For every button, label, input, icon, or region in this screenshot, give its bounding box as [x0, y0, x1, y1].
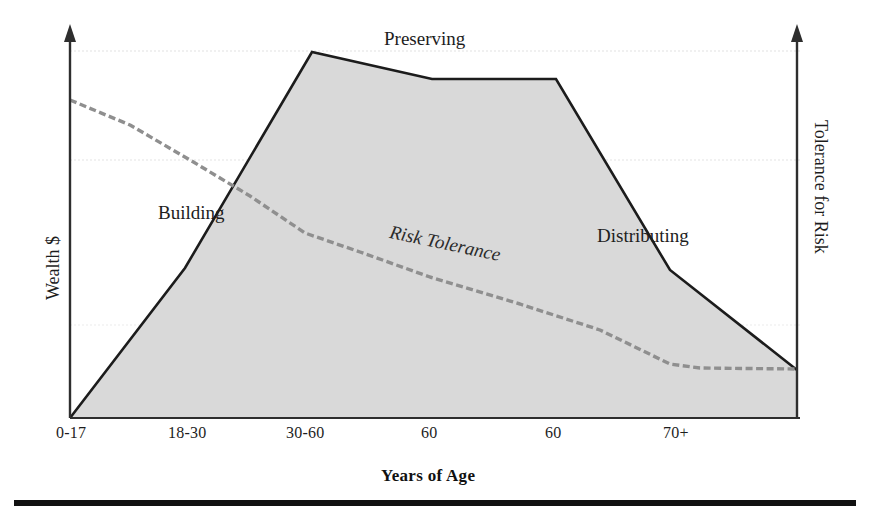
annotation-distributing: Distributing — [597, 226, 689, 245]
left-axis-title: Wealth $ — [44, 236, 62, 300]
right-axis — [791, 24, 803, 418]
x-tick-label-3: 60 — [421, 425, 437, 441]
right-axis-title: Tolerance for Risk — [812, 120, 830, 254]
x-tick-label-5: 70+ — [663, 425, 689, 441]
left-axis — [64, 24, 76, 418]
wealth-risk-tolerance-figure: Wealth $ Tolerance for Risk Preserving B… — [0, 0, 870, 525]
x-axis-title: Years of Age — [381, 467, 475, 484]
annotation-building: Building — [158, 203, 225, 222]
x-tick-label-0: 0-17 — [56, 425, 86, 441]
x-tick-label-2: 30-60 — [286, 425, 324, 441]
x-tick-label-4: 60 — [545, 425, 561, 441]
chart-canvas — [0, 0, 870, 525]
annotation-preserving: Preserving — [384, 29, 465, 48]
bottom-rule — [14, 500, 856, 506]
x-tick-label-1: 18-30 — [168, 425, 206, 441]
